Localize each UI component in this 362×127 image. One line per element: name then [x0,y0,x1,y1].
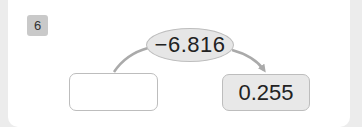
arrow-right-icon [232,50,264,70]
result-box: 0.255 [222,74,310,111]
operation-ellipse: −6.816 [146,28,234,62]
answer-input-box[interactable] [69,73,158,111]
arc-left-icon [114,48,148,72]
